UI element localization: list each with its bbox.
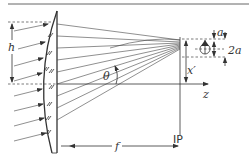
lens	[44, 11, 57, 153]
x-prime-label: x′	[187, 64, 196, 77]
focal-spot	[200, 40, 210, 54]
image-plane-label: IP	[173, 133, 183, 146]
focused-rays	[57, 24, 180, 120]
theta-arc	[115, 66, 117, 84]
a-label: a	[217, 26, 224, 39]
lens-focusing-diagram: z h θ IP f x′ a 2a	[0, 0, 249, 163]
z-axis-label: z	[202, 88, 209, 101]
incoming-rays	[14, 24, 48, 141]
theta-label: θ	[103, 70, 110, 83]
h-label: h	[8, 41, 15, 54]
two-a-label: 2a	[227, 44, 242, 57]
